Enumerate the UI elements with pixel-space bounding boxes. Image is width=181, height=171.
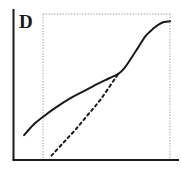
chart-svg: D <box>0 0 181 171</box>
panel-label: D <box>19 11 33 32</box>
figure-panel-d: D <box>0 0 181 171</box>
